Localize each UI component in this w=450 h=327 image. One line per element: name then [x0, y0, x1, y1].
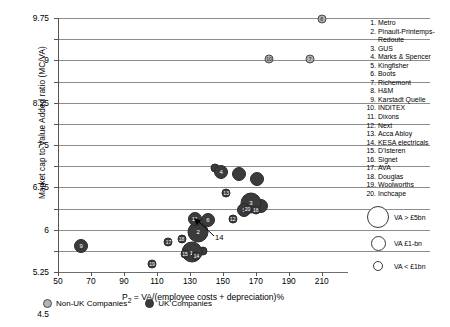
x-tick-label: 110: [150, 276, 163, 286]
company-legend-item: 8.H&M: [365, 87, 450, 96]
data-point-19[interactable]: 19: [147, 259, 156, 268]
company-legend-name: Pinault-Printemps-: [378, 28, 435, 35]
company-legend-number: 18.: [365, 173, 376, 182]
company-legend-name: KESA electricals: [378, 139, 429, 146]
y-tick-label: 6.75: [33, 182, 49, 192]
company-legend-number: 4.: [365, 53, 376, 62]
y-tick-label: 6: [44, 225, 49, 235]
company-legend-number: 8.: [365, 87, 376, 96]
company-legend-name: Dixons: [378, 113, 399, 120]
data-point-label: 4: [220, 169, 223, 175]
group-legend-swatch: [145, 299, 154, 308]
data-point[interactable]: [232, 167, 246, 181]
gridline: [58, 230, 430, 231]
company-legend-item: 3.GUS: [365, 45, 450, 54]
company-legend-name: D'Isteren: [378, 147, 405, 154]
data-point-label: 7: [309, 56, 312, 61]
gridline: [58, 272, 348, 273]
data-point-4[interactable]: 4: [214, 165, 228, 179]
y-tick: 6: [54, 124, 59, 125]
company-legend-name: Metro: [378, 19, 396, 26]
data-point-label: 15: [182, 252, 188, 257]
data-point-16[interactable]: 16: [251, 205, 260, 214]
company-legend-name: Richemont: [378, 79, 411, 86]
company-legend-number: 19.: [365, 181, 376, 190]
x-tick-label: 50: [53, 276, 62, 286]
group-legend-label: UK Companies: [158, 299, 212, 308]
bubble-size-legend-label: VA > £5bn: [394, 214, 425, 221]
bubble-size-legend-circle: [367, 206, 389, 228]
company-legend-number: 14.: [365, 139, 376, 148]
company-legend-item: 7.Richemont: [365, 79, 450, 88]
company-legend-number: 11.: [365, 113, 376, 122]
data-point-label: 18: [179, 236, 185, 241]
company-legend-item: 6.Boots: [365, 70, 450, 79]
company-legend-number: 1.: [365, 19, 376, 28]
group-legend-items: Non-UK CompaniesUK Companies: [43, 299, 230, 308]
company-legend-item: 19.Woolworths: [365, 181, 450, 190]
y-tick: 2.25: [54, 230, 59, 231]
y-tick: 6.75: [54, 103, 59, 104]
company-legend-list: 1.Metro2.Pinault-Printemps-Redoute3.GUS4…: [365, 19, 450, 198]
y-tick: 5.25: [54, 145, 59, 146]
y-tick: 3.75: [54, 187, 59, 188]
group-legend-label: Non-UK Companies: [56, 299, 127, 308]
callout-label-14: 14: [215, 233, 223, 242]
y-tick: 3: [54, 209, 59, 210]
y-tick-label: 9.75: [33, 13, 49, 23]
company-legend-number: 17.: [365, 164, 376, 173]
company-legend-item: 14.KESA electricals: [365, 139, 450, 148]
company-legend-item: 15.D'Isteren: [365, 147, 450, 156]
y-tick-label: 7.5: [37, 140, 49, 150]
company-legend-number: 6.: [365, 70, 376, 79]
x-tick-label: 90: [119, 276, 128, 286]
company-legend-name: INDITEX: [378, 104, 405, 111]
company-legend-item: 2.Pinault-Printemps-Redoute: [365, 28, 450, 45]
data-point-label: 9: [79, 243, 82, 249]
data-point-10[interactable]: 10: [265, 54, 274, 63]
company-legend-item: 20.Inchcape: [365, 190, 450, 199]
group-legend-item-uk[interactable]: UK Companies: [145, 299, 212, 308]
y-tick: 7.5: [54, 82, 59, 83]
data-point-20[interactable]: 20: [243, 204, 252, 213]
bubble-size-legend-circle: [371, 236, 386, 251]
company-legend-item: 12.Next: [365, 122, 450, 131]
data-point[interactable]: [250, 172, 264, 186]
company-legend-name: Marks & Spencer: [378, 53, 431, 60]
group-legend: Non-UK CompaniesUK Companies: [43, 299, 230, 308]
x-tick-label: 190: [282, 276, 296, 286]
chart-root: Market cap to Value Added ratio (MC/VA) …: [0, 0, 450, 327]
data-point-15[interactable]: 15: [180, 250, 189, 259]
company-legend-item: 10.INDITEX: [365, 104, 450, 113]
data-point-7[interactable]: 7: [306, 54, 315, 63]
bubble-size-legend-label: VA < £1bn: [394, 263, 425, 270]
data-point-13[interactable]: 13: [222, 188, 231, 197]
y-tick: 1.5: [54, 251, 59, 252]
data-point-9[interactable]: 9: [74, 239, 88, 253]
company-legend-name: Signet: [378, 156, 398, 163]
data-point-label: 14: [194, 253, 200, 258]
data-point-label: 8: [320, 16, 323, 21]
company-legend-number: 7.: [365, 79, 376, 88]
company-legend-number: 10.: [365, 104, 376, 113]
y-tick: 4.5: [54, 166, 59, 167]
y-tick-label: 8.25: [33, 98, 49, 108]
data-point-14[interactable]: 14: [192, 251, 201, 260]
data-point-17[interactable]: 17: [164, 238, 173, 247]
company-legend-item: 9.Karstadt Quelle: [365, 96, 450, 105]
data-point-18[interactable]: 18: [177, 234, 186, 243]
data-point-8[interactable]: 8: [317, 14, 326, 23]
bubble-size-legend-label: VA £1-bn: [394, 240, 422, 247]
company-legend-item: 11.Dixons: [365, 113, 450, 122]
company-legend-name: H&M: [378, 87, 393, 94]
group-legend-item-nonuk[interactable]: Non-UK Companies: [43, 299, 127, 308]
company-legend-name: GUS: [378, 45, 393, 52]
company-legend-number: 15.: [365, 147, 376, 156]
company-legend-item: 16.Signet: [365, 156, 450, 165]
x-tick-label: 130: [183, 276, 197, 286]
data-point-12[interactable]: 12: [228, 215, 237, 224]
company-legend-name: Woolworths: [378, 181, 414, 188]
y-axis-title: Market cap to Value Added ratio (MC/VA): [38, 3, 47, 243]
data-point-label: 16: [253, 207, 259, 212]
company-legend-name: Acca Abloy: [378, 130, 412, 137]
